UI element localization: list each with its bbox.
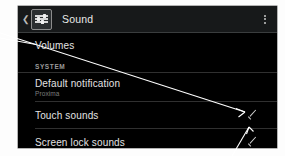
section-header-label: SYSTEM — [35, 63, 65, 72]
list-item-touch-sounds[interactable]: Touch sounds — [18, 102, 277, 128]
checkmark-icon[interactable] — [247, 136, 259, 148]
list-item-title: Touch sounds — [35, 110, 99, 121]
list-item-volumes[interactable]: Volumes — [18, 33, 277, 57]
settings-list: Volumes SYSTEM Default notification Prox… — [18, 33, 277, 148]
list-item-screen-lock-sounds[interactable]: Screen lock sounds — [18, 129, 277, 148]
page-title: Sound — [62, 13, 93, 25]
list-item-title: Volumes — [35, 40, 74, 51]
section-header-system: SYSTEM — [18, 57, 277, 72]
checkmark-icon[interactable] — [247, 109, 259, 121]
action-bar: ❮ Sound — [18, 6, 277, 33]
list-item-subtitle: Proxima — [35, 90, 120, 97]
back-chevron-icon[interactable]: ❮ — [21, 6, 30, 32]
list-item-default-notification[interactable]: Default notification Proxima — [18, 73, 277, 101]
screenshot-page: ❮ Sound Volumes SYSTEM — [0, 0, 285, 156]
sound-sliders-icon — [31, 9, 52, 30]
device-screen: ❮ Sound Volumes SYSTEM — [18, 6, 277, 148]
list-item-title: Default notification — [35, 78, 120, 89]
list-item-title: Screen lock sounds — [35, 137, 125, 148]
overflow-menu-icon[interactable] — [259, 6, 271, 32]
